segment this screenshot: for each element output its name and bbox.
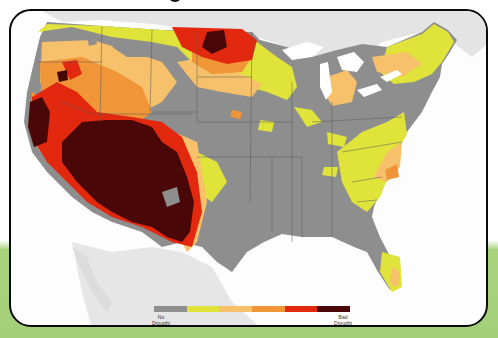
legend-label-bad-drought: Bad Drought	[328, 315, 358, 326]
legend-segment-moderate	[219, 306, 252, 312]
legend-label-no-drought: No Drought	[146, 315, 176, 326]
legend: No Drought Bad Drought	[154, 306, 350, 327]
legend-label-drought-right: Drought	[328, 321, 358, 327]
legend-segment-extreme	[285, 306, 318, 312]
title-fragment	[168, 0, 182, 2]
drought-map	[11, 11, 488, 327]
legend-segment-exceptional	[317, 306, 350, 312]
map-card: No Drought Bad Drought	[9, 9, 488, 327]
legend-label-drought-left: Drought	[146, 321, 176, 327]
legend-segment-abnormally-dry	[187, 306, 220, 312]
legend-segment-severe	[252, 306, 285, 312]
legend-segment-no-drought	[154, 306, 187, 312]
legend-color-bar	[154, 306, 350, 312]
